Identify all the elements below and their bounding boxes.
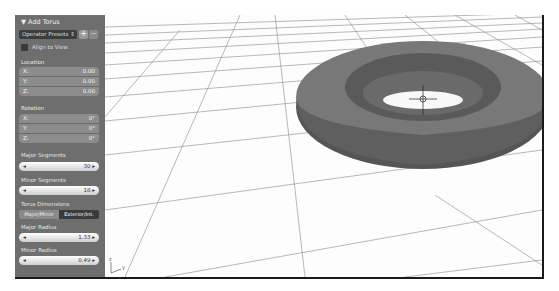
operator-presets-label: Operator Presets (22, 31, 68, 37)
torus-dimensions-label: Torus Dimensions (21, 201, 69, 207)
major-radius-field[interactable]: ◂1.33 ▸ (19, 233, 99, 242)
align-to-view-label: Align to View (32, 44, 68, 50)
axis-z-label: z (109, 256, 112, 262)
torus-dimensions-toggle: Major/Minor Exterior/Int. (19, 210, 99, 219)
remove-preset-button[interactable]: − (89, 30, 98, 39)
add-preset-button[interactable]: + (79, 30, 88, 39)
rotation-y-field[interactable]: Y:0° (19, 124, 99, 134)
operator-presets-dropdown[interactable]: Operator Presets ⇕ (19, 30, 77, 39)
dropdown-arrow-icon: ⇕ (70, 31, 75, 37)
location-label: Location (21, 59, 44, 65)
rotation-label: Rotation (21, 105, 44, 111)
add-torus-operator-panel: ▼ Add Torus Operator Presets ⇕ + − Align… (15, 15, 105, 277)
rotation-vector: X:0° Y:0° Z:0° (19, 114, 99, 143)
major-minor-option[interactable]: Major/Minor (19, 210, 59, 219)
blender-window: z y ▼ Add Torus Operator Presets ⇕ + − A… (15, 15, 544, 279)
location-z-field[interactable]: Z:0.00 (19, 87, 99, 96)
axis-y-label: y (122, 264, 125, 271)
align-to-view-checkbox[interactable] (21, 44, 28, 51)
location-x-field[interactable]: X:0.00 (19, 67, 99, 77)
location-vector: X:0.00 Y:0.00 Z:0.00 (19, 67, 99, 96)
torus-mesh[interactable] (296, 41, 542, 169)
major-segments-field[interactable]: ◂30 ▸ (19, 162, 99, 171)
major-radius-label: Major Radius (21, 224, 56, 230)
major-segments-label: Major Segments (21, 152, 66, 158)
exterior-interior-option[interactable]: Exterior/Int. (59, 210, 99, 219)
axis-gizmo-icon (111, 262, 121, 273)
rotation-z-field[interactable]: Z:0° (19, 134, 99, 143)
viewport-scene: z y (105, 15, 542, 277)
rotation-x-field[interactable]: X:0° (19, 114, 99, 124)
3d-viewport[interactable]: z y (105, 15, 542, 277)
minor-radius-field[interactable]: ◂0.49 ▸ (19, 256, 99, 265)
minor-segments-label: Minor Segments (21, 177, 66, 183)
location-y-field[interactable]: Y:0.00 (19, 77, 99, 87)
panel-title[interactable]: ▼ Add Torus (21, 18, 60, 26)
minor-segments-field[interactable]: ◂18 ▸ (19, 186, 99, 195)
minor-radius-label: Minor Radius (21, 247, 57, 253)
